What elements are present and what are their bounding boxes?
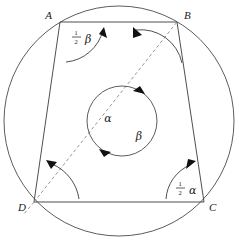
circumscribed-circle [4,6,234,236]
central-rotation-circle [87,86,157,156]
arrow-head-at-b [133,27,142,38]
inner-arrow-bottom [99,149,111,157]
angle-arc-at-d [52,164,79,199]
half-beta-numerator: 1 [74,29,77,36]
beta-center-label: β [135,130,142,143]
half-alpha-numerator: 1 [178,180,181,187]
vertex-label-a: A [44,9,52,21]
half-beta-symbol: β [84,33,91,46]
inner-arrow-top [133,86,145,94]
half-beta-denominator: 2 [74,38,77,45]
arrow-head-at-d [46,160,57,169]
alpha-center-label: α [104,112,112,125]
vertex-label-c: C [209,201,217,213]
arrow-head-at-c [186,159,196,169]
angle-arc-at-b [136,30,182,63]
half-beta-label: 1 2 β [72,29,91,46]
vertex-label-b: B [184,9,191,21]
arrow-head-at-a [99,27,107,38]
half-alpha-symbol: α [189,184,197,197]
half-alpha-denominator: 2 [178,189,181,196]
half-alpha-label: 1 2 α [176,180,197,197]
geometry-figure: A B C D 1 2 β 1 2 α α β [0,0,239,249]
vertex-label-d: D [17,201,26,213]
geometry-canvas: A B C D 1 2 β 1 2 α α β [0,0,239,249]
quadrilateral-abcd [34,22,204,202]
